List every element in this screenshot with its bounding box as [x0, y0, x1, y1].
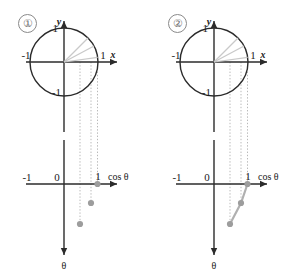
unit-circle-cosine-figure: ①	[0, 0, 301, 279]
panel-1: ①	[0, 0, 150, 279]
circle-ytick-neg1-1: -1	[52, 86, 61, 98]
rays-1	[64, 38, 98, 62]
rays-2	[214, 38, 248, 62]
circle-xtick-neg1-2: -1	[171, 49, 180, 61]
circle-xtick-1-1: 1	[100, 49, 106, 61]
ray-45deg-2	[214, 38, 238, 62]
cos-point-2-b	[238, 200, 244, 206]
circle-y-axis-label-1: y	[56, 16, 62, 27]
theta-axis-label-1: θ	[62, 260, 67, 271]
cos-plot-2	[176, 140, 267, 255]
circle-y-axis-label-2: y	[206, 16, 212, 27]
cos-point-2-c	[227, 221, 233, 227]
labels-1: -1 1 1 -1 x y -1 0 1 cos θ θ	[21, 16, 128, 271]
cos-point-1-c	[77, 221, 83, 227]
ray-45deg-1	[64, 38, 88, 62]
cos-x-axis-label-2: cos θ	[258, 171, 279, 182]
circle-ytick-neg1-2: -1	[202, 86, 211, 98]
theta-axis-arrow-1	[61, 248, 67, 255]
panel-2: ②	[150, 0, 300, 279]
panel-2-badge: ②	[168, 14, 187, 33]
theta-axis-label-2: θ	[212, 260, 217, 271]
cos-point-1-b	[88, 200, 94, 206]
circle-x-axis-label-2: x	[260, 49, 266, 60]
theta-axis-arrow-2	[211, 248, 217, 255]
panel-1-badge: ①	[18, 14, 37, 33]
cos-xtick-1-1: 1	[95, 170, 101, 182]
labels-2: -1 1 1 -1 x y -1 0 1 cos θ θ	[171, 16, 278, 271]
cos-xtick-1-2: 1	[245, 170, 251, 182]
cos-xtick-neg1-1: -1	[22, 171, 31, 183]
cos-plot-1	[26, 140, 117, 255]
circle-y-axis-arrow-2	[211, 21, 217, 28]
cos-xtick-neg1-2: -1	[172, 171, 181, 183]
circle-plot-2	[176, 21, 267, 132]
panel-1-canvas: -1 1 1 -1 x y -1 0 1 cos θ θ	[0, 0, 150, 279]
circle-plot-1	[26, 21, 117, 132]
panel-2-canvas: -1 1 1 -1 x y -1 0 1 cos θ θ	[150, 0, 300, 279]
circle-y-axis-arrow-1	[61, 21, 67, 28]
circle-xtick-neg1-1: -1	[21, 49, 30, 61]
circle-xtick-1-2: 1	[250, 49, 256, 61]
cos-x-axis-label-1: cos θ	[108, 171, 129, 182]
cos-xtick-0-1: 0	[54, 171, 60, 183]
circle-x-axis-label-1: x	[110, 49, 116, 60]
cos-xtick-0-2: 0	[204, 171, 210, 183]
